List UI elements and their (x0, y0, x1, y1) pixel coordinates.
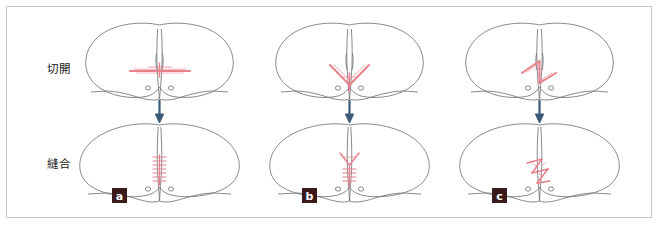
panel-c: c (442, 7, 637, 219)
panel-a-suture-diagram (62, 119, 257, 215)
incision-mark-c (522, 61, 556, 83)
panel-badge-a: a (112, 188, 127, 203)
panel-badge-b: b (302, 188, 317, 203)
suture-mark-c (527, 159, 550, 183)
incision-mark-a (130, 63, 190, 77)
panel-badge-c: c (492, 188, 507, 203)
suture-mark-a (153, 155, 166, 185)
figure-frame: 切開 縫合 (6, 6, 652, 218)
panel-b-suture-diagram (252, 119, 447, 215)
panel-c-suture-diagram (442, 119, 637, 215)
panel-b: b (252, 7, 447, 219)
panel-a: a (62, 7, 257, 219)
suture-mark-b (340, 153, 359, 187)
